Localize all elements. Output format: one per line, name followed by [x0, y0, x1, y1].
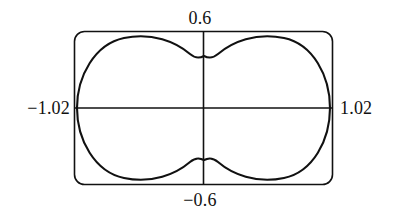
axis-label-right: 1.02	[340, 99, 396, 117]
axis-label-bottom: −0.6	[0, 191, 400, 209]
axis-label-left: −1.02	[14, 99, 70, 117]
plot-figure: 0.6 −0.6 −1.02 1.02	[0, 0, 400, 217]
axis-label-top: 0.6	[0, 9, 400, 27]
